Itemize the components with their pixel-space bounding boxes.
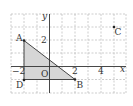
point-a-label: A [15, 33, 23, 43]
x-tick-2: 2 [72, 66, 78, 76]
x-tick-4: 4 [98, 66, 104, 76]
x-tick-neg2: −2 [12, 66, 25, 76]
coordinate-diagram: A B C D y x O 2 −2 2 4 [0, 0, 133, 106]
point-b-label: B [77, 80, 84, 90]
y-axis-label: y [41, 11, 48, 21]
point-d-label: D [16, 80, 23, 90]
point-a-marker [23, 39, 26, 42]
origin-label: O [41, 69, 48, 79]
x-axis-label: x [120, 64, 125, 74]
point-c-label: C [115, 27, 122, 37]
y-tick-2: 2 [41, 35, 47, 45]
